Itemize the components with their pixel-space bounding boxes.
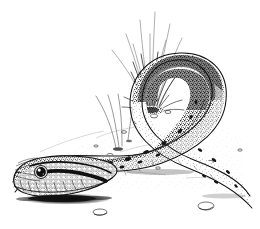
illustration-figure: Snake coiled on sandy ground beside a gr… bbox=[0, 0, 260, 229]
snake-illustration-canvas bbox=[0, 0, 260, 229]
snake-eye bbox=[35, 166, 48, 179]
nostril bbox=[17, 172, 19, 174]
